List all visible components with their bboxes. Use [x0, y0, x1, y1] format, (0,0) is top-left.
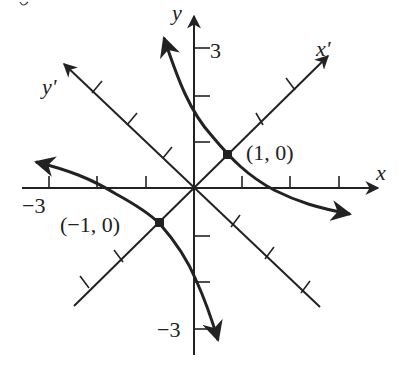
x-prime-label: x'	[315, 36, 331, 61]
y-max-label: 3	[210, 38, 221, 63]
x-min-label: −3	[22, 193, 45, 218]
y-prime-label: y'	[40, 74, 57, 99]
point-label-1-0: (1, 0)	[246, 140, 294, 165]
point-neg1-0	[155, 218, 164, 227]
y-min-label: −3	[157, 317, 180, 342]
point-label-neg1-0: (−1, 0)	[60, 212, 120, 237]
partial-caption-text	[20, 2, 28, 5]
x-axis-label: x	[375, 160, 386, 185]
y-axis-label: y	[170, 0, 182, 25]
hyperbola-figure: y x x' y' 3 −3 −3 (1, 0) (−1, 0)	[0, 0, 405, 370]
point-1-0	[223, 150, 232, 159]
